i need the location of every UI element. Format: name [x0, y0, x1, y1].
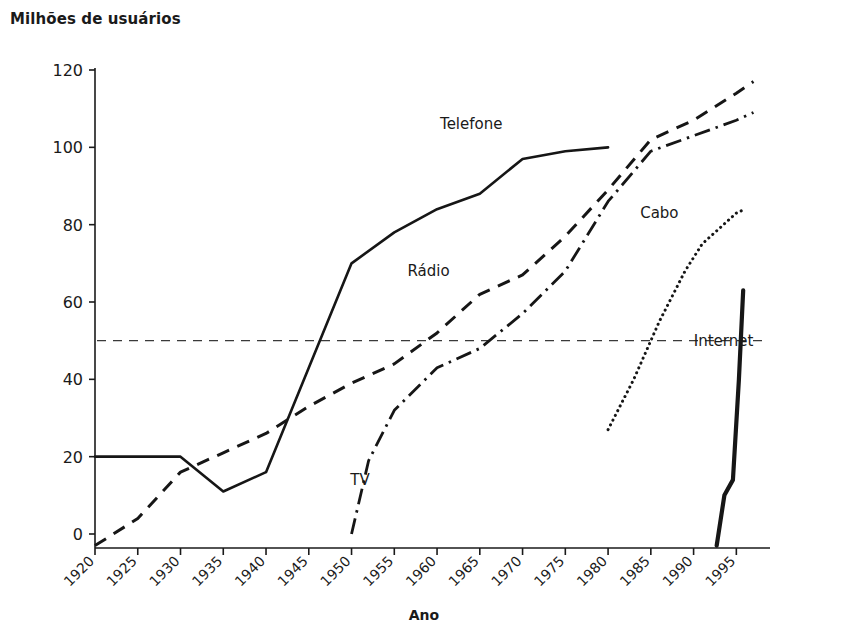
- y-tick-label: 0: [73, 525, 83, 544]
- series-line-rdio: [95, 82, 753, 546]
- chart-plot-area: 020406080100120 192019251930193519401945…: [0, 0, 848, 632]
- x-tick-label: 1930: [146, 553, 183, 590]
- series-label-cabo: Cabo: [640, 204, 678, 222]
- x-tick-label: 1965: [445, 553, 482, 590]
- y-tick-labels: 020406080100120: [52, 61, 83, 544]
- x-tick-label: 1955: [360, 553, 397, 590]
- x-tick-label: 1920: [61, 553, 98, 590]
- x-tick-label: 1985: [616, 553, 653, 590]
- x-tick-label: 1940: [232, 553, 269, 590]
- series-layer: [95, 82, 753, 546]
- x-tick-labels: 1920192519301935194019451950195519601965…: [61, 553, 739, 590]
- x-axis-title: Ano: [0, 607, 848, 623]
- x-tick-label: 1945: [274, 553, 311, 590]
- axes-layer: [89, 68, 770, 555]
- series-label-tv: TV: [349, 471, 370, 489]
- y-tick-label: 60: [63, 293, 83, 312]
- y-tick-label: 80: [63, 216, 83, 235]
- series-line-telefone: [95, 147, 608, 491]
- x-tick-label: 1935: [189, 553, 226, 590]
- y-tick-label: 20: [63, 448, 83, 467]
- series-label-telefone: Telefone: [439, 115, 502, 133]
- x-tick-label: 1925: [103, 553, 140, 590]
- x-tick-label: 1970: [488, 553, 525, 590]
- series-label-internet: Internet: [694, 332, 754, 350]
- chart-root: Milhões de usuários 020406080100120 1920…: [0, 0, 848, 632]
- series-line-internet: [717, 290, 744, 545]
- x-tick-label: 1990: [659, 553, 696, 590]
- x-tick-label: 1950: [317, 553, 354, 590]
- x-tick-label: 1975: [531, 553, 568, 590]
- x-tick-label: 1960: [403, 553, 440, 590]
- y-tick-label: 120: [52, 61, 83, 80]
- series-label-rdio: Rádio: [407, 262, 449, 280]
- series-labels: TelefoneRádioTVCaboInternet: [349, 115, 753, 489]
- series-line-tv: [352, 113, 754, 534]
- x-tick-label: 1995: [702, 553, 739, 590]
- y-tick-label: 100: [52, 138, 83, 157]
- series-line-cabo: [608, 209, 745, 429]
- y-tick-label: 40: [63, 370, 83, 389]
- x-tick-label: 1980: [574, 553, 611, 590]
